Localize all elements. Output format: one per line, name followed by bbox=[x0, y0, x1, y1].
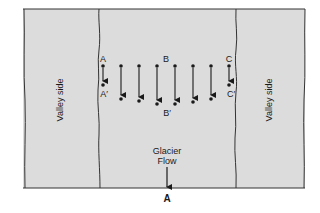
label-b-prime: B′ bbox=[163, 108, 171, 118]
initial-position-dot-icon bbox=[155, 64, 159, 68]
label-a-prime: A′ bbox=[100, 89, 108, 99]
initial-position-dot-icon bbox=[173, 64, 177, 68]
final-position-dot-icon bbox=[209, 97, 213, 101]
final-position-dot-icon bbox=[173, 102, 177, 106]
glacier-flow-label-line2: Flow bbox=[157, 156, 177, 166]
final-position-dot-icon bbox=[191, 100, 195, 104]
final-position-dot-icon bbox=[227, 83, 231, 87]
valley-side-right-label: Valley side bbox=[264, 79, 274, 122]
section-label: A bbox=[163, 193, 170, 204]
final-position-dot-icon bbox=[119, 97, 123, 101]
initial-position-dot-icon bbox=[137, 64, 141, 68]
glacier-flow-label-line1: Glacier bbox=[153, 146, 182, 156]
initial-position-dot-icon bbox=[191, 64, 195, 68]
label-c-prime: C′ bbox=[227, 89, 235, 99]
final-position-dot-icon bbox=[137, 99, 141, 103]
initial-position-dot-icon bbox=[227, 64, 231, 68]
final-position-dot-icon bbox=[155, 102, 159, 106]
glacier-flow-diagram: Valley side Valley side A A′ B B′ C C′ G… bbox=[0, 0, 320, 213]
label-b: B bbox=[163, 54, 169, 64]
label-c: C bbox=[226, 54, 233, 64]
label-a: A bbox=[100, 54, 106, 64]
initial-position-dot-icon bbox=[119, 64, 123, 68]
initial-position-dot-icon bbox=[209, 64, 213, 68]
initial-position-dot-icon bbox=[101, 64, 105, 68]
final-position-dot-icon bbox=[101, 83, 105, 87]
valley-side-left-label: Valley side bbox=[55, 79, 65, 122]
